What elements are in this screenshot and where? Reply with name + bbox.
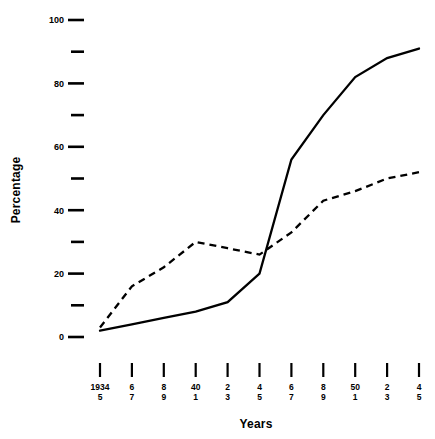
y-tick-label: 20 [54,269,64,279]
x-tick-label-top: 8 [161,382,166,392]
x-tick-label-top: 4 [257,382,262,392]
x-tick-label-top: 1934 [91,382,110,392]
chart-figure: 020406080100 1934684024685024 5791357913… [0,0,435,439]
series-solid-line [100,49,419,331]
data-series-layer [100,49,419,331]
line-chart-canvas: 020406080100 1934684024685024 5791357913… [0,0,435,439]
y-tick-label: 60 [54,142,64,152]
x-tick-label-top: 40 [191,382,201,392]
y-tick-label: 80 [54,79,64,89]
x-tick-label-bottom: 7 [130,392,135,402]
y-axis-tick-labels: 020406080100 [49,15,64,342]
y-tick-label: 40 [54,206,64,216]
x-tick-label-bottom: 5 [257,392,262,402]
x-tick-label-bottom: 5 [417,392,422,402]
y-axis-title: Percentage [9,157,23,224]
x-axis-tick-marks [100,363,419,377]
x-tick-label-top: 2 [225,382,230,392]
x-tick-label-bottom: 7 [289,392,294,402]
series-dashed-line [100,172,419,327]
x-tick-label-top: 6 [130,382,135,392]
x-tick-label-bottom: 3 [225,392,230,402]
x-axis-title: Years [239,417,272,431]
y-tick-label: 100 [49,15,64,25]
x-axis-tick-labels-bottom: 57913579135 [98,392,422,402]
x-tick-label-top: 2 [385,382,390,392]
x-tick-label-bottom: 9 [161,392,166,402]
x-tick-label-top: 50 [350,382,360,392]
y-tick-label: 0 [59,332,64,342]
x-tick-label-bottom: 1 [353,392,358,402]
x-tick-label-top: 4 [417,382,422,392]
x-tick-label-top: 6 [289,382,294,392]
x-tick-label-top: 8 [321,382,326,392]
y-axis-tick-marks [68,20,84,337]
x-axis-tick-labels-top: 1934684024685024 [91,382,422,392]
x-tick-label-bottom: 5 [98,392,103,402]
x-tick-label-bottom: 1 [193,392,198,402]
x-tick-label-bottom: 3 [385,392,390,402]
x-tick-label-bottom: 9 [321,392,326,402]
